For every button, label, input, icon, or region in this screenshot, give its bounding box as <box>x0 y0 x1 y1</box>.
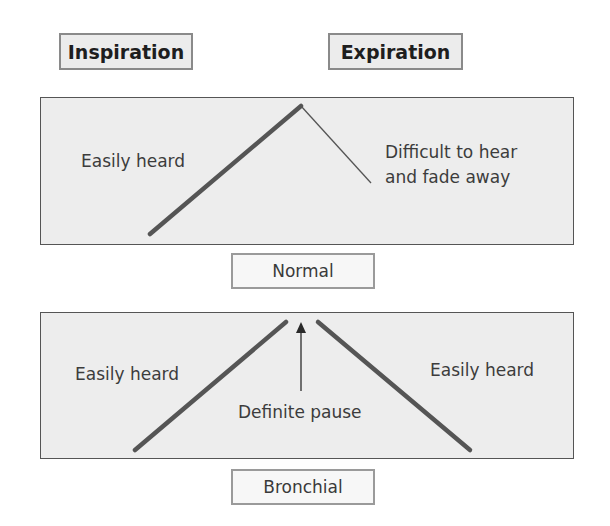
arrowhead-icon <box>296 322 306 333</box>
normal-expiration-line <box>301 106 371 183</box>
diagram-lines <box>0 0 610 526</box>
normal-inspiration-line <box>150 106 301 234</box>
bronchial-expiration-line <box>318 322 470 450</box>
bronchial-inspiration-line <box>135 322 286 450</box>
